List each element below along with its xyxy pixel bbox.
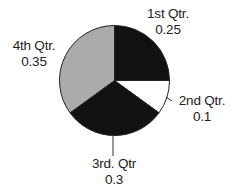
- label-2nd-qtr: 2nd Qtr. 0.1: [172, 93, 232, 125]
- label-4th-qtr-value: 0.35: [4, 54, 64, 70]
- label-1st-qtr-value: 0.25: [140, 22, 196, 38]
- pie-chart: 1st Qtr. 0.25 2nd Qtr. 0.1 3rd. Qtr 0.3 …: [0, 0, 234, 191]
- label-3rd-qtr-value: 0.3: [84, 172, 144, 188]
- label-3rd-qtr-name: 3rd. Qtr: [84, 156, 144, 172]
- pie-slices: [59, 25, 169, 135]
- label-3rd-qtr: 3rd. Qtr 0.3: [84, 156, 144, 188]
- label-4th-qtr-name: 4th Qtr.: [4, 38, 64, 54]
- label-2nd-qtr-name: 2nd Qtr.: [172, 93, 232, 109]
- label-1st-qtr: 1st Qtr. 0.25: [140, 6, 196, 38]
- label-1st-qtr-name: 1st Qtr.: [140, 6, 196, 22]
- label-2nd-qtr-value: 0.1: [172, 109, 232, 125]
- label-4th-qtr: 4th Qtr. 0.35: [4, 38, 64, 70]
